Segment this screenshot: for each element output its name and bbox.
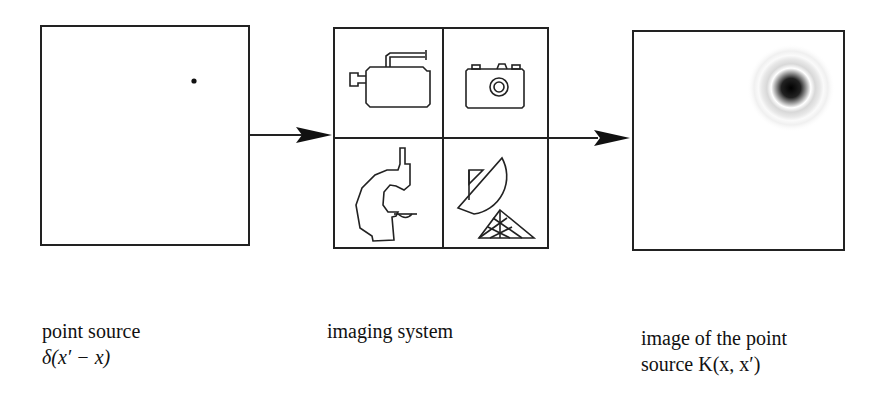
imaging-system-box [334,28,548,248]
point-source-box [41,26,249,245]
point-source-label: point source δ(x′ − x) [42,318,140,370]
point-source-formula: δ(x′ − x) [42,344,140,370]
point-image-title: image of the point [641,325,787,351]
point-image-formula: source K(x, x′) [641,351,787,377]
point-source-title: point source [42,318,140,344]
imaging-system-title: imaging system [327,318,453,344]
imaging-system-label: imaging system [327,318,453,344]
arrow-1 [250,127,332,143]
point-image-box [633,31,844,250]
point-image-label: image of the point source K(x, x′) [641,325,787,377]
point-spread-blob [747,44,835,132]
arrow-2 [548,130,630,146]
point-source-dot [191,78,196,83]
